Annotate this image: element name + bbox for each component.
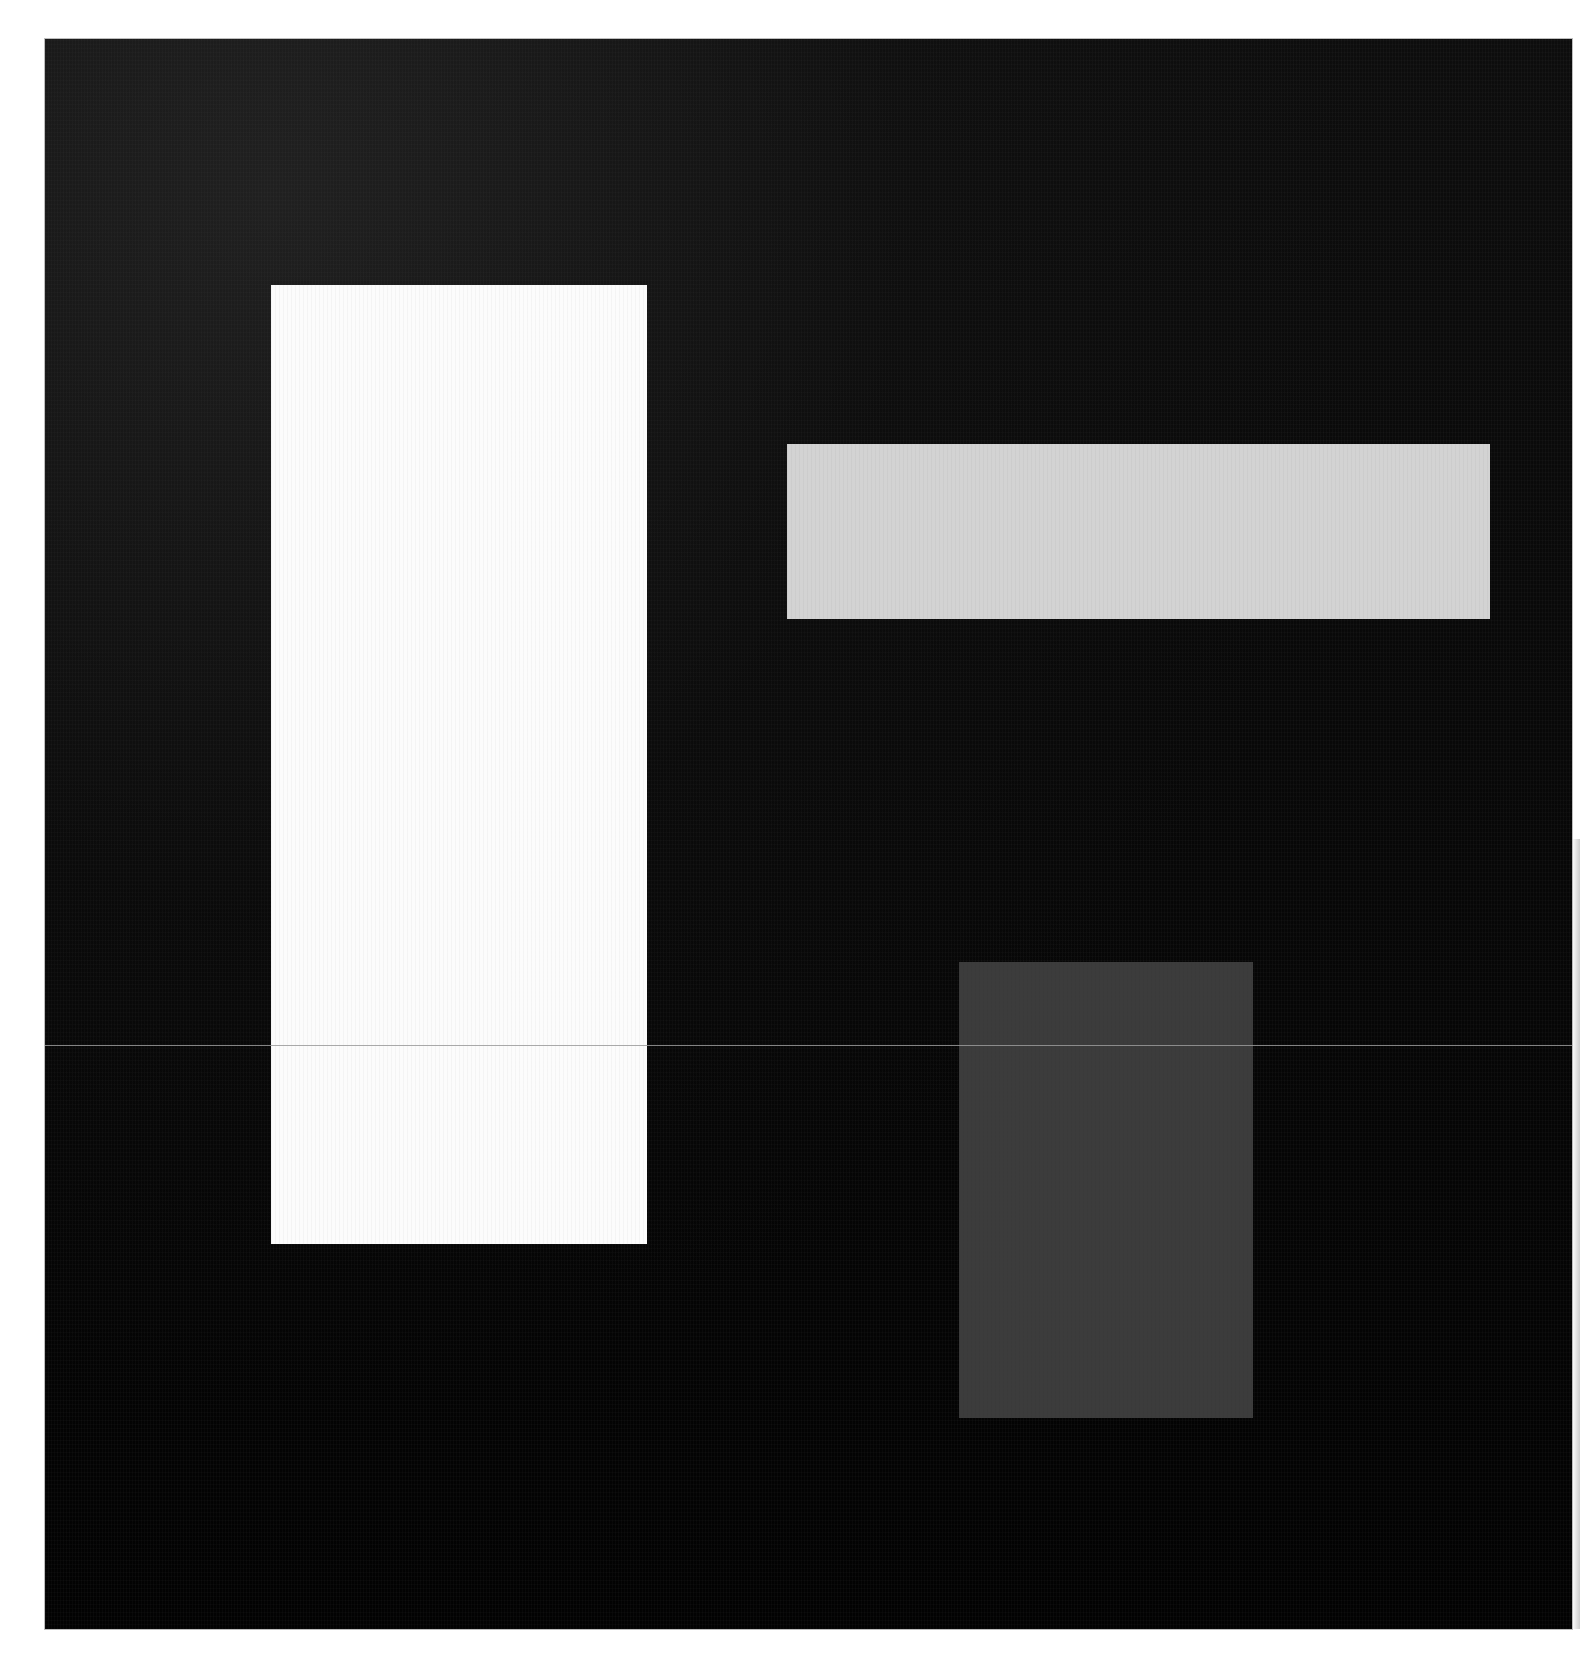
white-vertical-rectangle [271,285,647,1244]
dark-gray-rectangle [959,962,1253,1418]
light-gray-horizontal-rectangle [787,444,1490,619]
scan-line-divider [45,1045,1572,1046]
page-edge-shadow [1572,839,1580,1629]
